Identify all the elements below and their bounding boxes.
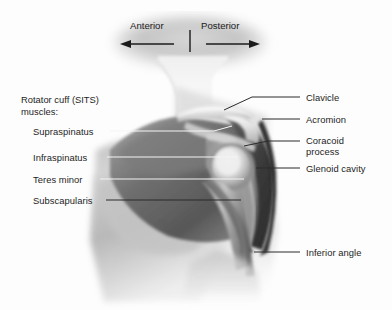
label-clavicle: Clavicle	[306, 92, 339, 103]
rotator-cuff-title-line1: Rotator cuff (SITS)	[21, 94, 131, 106]
label-infraspinatus: Infraspinatus	[33, 152, 87, 163]
label-inferior-angle: Inferior angle	[306, 247, 361, 258]
posterior-label: Posterior	[201, 20, 239, 31]
label-coracoid-process-line1: Coracoid	[306, 135, 368, 146]
label-coracoid-process-line2: process	[306, 146, 368, 157]
label-supraspinatus: Supraspinatus	[33, 126, 94, 137]
anterior-label: Anterior	[130, 20, 164, 31]
anatomy-figure: Anterior Posterior Rotator cuff (SITS) m…	[0, 0, 392, 310]
label-glenoid-cavity: Glenoid cavity	[306, 163, 366, 174]
label-coracoid-process: Coracoid process	[306, 135, 368, 157]
rotator-cuff-title-line2: muscles:	[21, 106, 131, 118]
label-acromion: Acromion	[306, 114, 346, 125]
rotator-cuff-group-title: Rotator cuff (SITS) muscles:	[21, 94, 131, 117]
label-teres-minor: Teres minor	[33, 174, 83, 185]
label-subscapularis: Subscapularis	[33, 195, 93, 206]
